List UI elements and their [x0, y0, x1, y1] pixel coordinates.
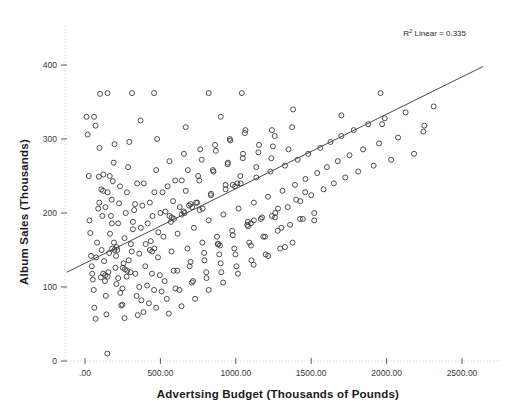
scatter-point	[110, 179, 115, 184]
scatter-point	[114, 253, 119, 258]
scatter-point	[193, 296, 198, 301]
scatter-plot-figure: 0100200300400 .00500.001000.001500.00200…	[0, 0, 505, 415]
scatter-point	[251, 262, 256, 267]
scatter-point	[179, 178, 184, 183]
scatter-point	[98, 91, 103, 96]
scatter-point	[213, 148, 218, 153]
scatter-point	[251, 218, 256, 223]
scatter-point	[160, 190, 165, 195]
scatter-point	[189, 280, 194, 285]
scatter-point	[164, 296, 169, 301]
scatter-point	[206, 91, 211, 96]
y-tick-label: 300	[43, 134, 57, 144]
scatter-point	[108, 213, 113, 218]
scatter-point	[190, 205, 195, 210]
scatter-point	[133, 202, 138, 207]
scatter-point	[239, 91, 244, 96]
scatter-point	[165, 184, 170, 189]
scatter-point	[190, 279, 195, 284]
plot-canvas: 0100200300400 .00500.001000.001500.00200…	[0, 0, 505, 415]
y-axis-ticks: 0100200300400	[43, 60, 67, 366]
scatter-point	[361, 147, 366, 152]
scatter-point	[197, 208, 202, 213]
scatter-point	[138, 118, 143, 123]
scatter-point	[92, 305, 97, 310]
scatter-point	[200, 206, 205, 211]
scatter-point	[422, 123, 427, 128]
x-tick-label: 500.00	[147, 368, 173, 378]
scatter-point	[219, 270, 224, 275]
scatter-point	[96, 206, 101, 211]
scatter-point	[93, 123, 98, 128]
scatter-point	[270, 144, 275, 149]
scatter-point	[171, 199, 176, 204]
scatter-point	[159, 289, 164, 294]
scatter-point	[380, 122, 385, 127]
scatter-point	[107, 174, 112, 179]
scatter-point	[162, 279, 167, 284]
scatter-point	[312, 211, 317, 216]
scatter-point	[278, 246, 283, 251]
scatter-point	[166, 311, 171, 316]
scatter-point	[149, 271, 154, 276]
scatter-point	[177, 205, 182, 210]
x-tick-label: 1500.00	[296, 368, 327, 378]
scatter-point	[150, 213, 155, 218]
scatter-point	[218, 114, 223, 119]
scatter-point	[141, 310, 146, 315]
scatter-point	[235, 271, 240, 276]
scatter-point	[202, 250, 207, 255]
scatter-point	[155, 255, 160, 260]
scatter-point	[175, 231, 180, 236]
scatter-point	[122, 236, 127, 241]
scatter-point	[124, 274, 129, 279]
scatter-point	[331, 181, 336, 186]
scatter-point	[139, 298, 144, 303]
scatter-point	[105, 351, 110, 356]
scatter-point	[97, 200, 102, 205]
scatter-point	[288, 222, 293, 227]
scatter-point	[217, 252, 222, 257]
scatter-point	[89, 253, 94, 258]
scatter-point	[118, 290, 123, 295]
y-tick-label: 400	[43, 60, 57, 70]
scatter-point	[377, 141, 382, 146]
scatter-point	[88, 230, 93, 235]
scatter-point	[279, 225, 284, 230]
r-squared-annotation: R2 Linear = 0.335	[403, 28, 466, 38]
scatter-point	[87, 218, 92, 223]
scatter-point	[303, 176, 308, 181]
scatter-point	[152, 91, 157, 96]
scatter-point	[236, 206, 241, 211]
scatter-point	[200, 240, 205, 245]
scatter-point	[291, 107, 296, 112]
scatter-point	[282, 245, 287, 250]
scatter-point	[251, 200, 256, 205]
scatter-point	[143, 242, 148, 247]
scatter-point	[141, 181, 146, 186]
scatter-point	[343, 175, 348, 180]
scatter-point	[312, 218, 317, 223]
scatter-point	[103, 205, 108, 210]
scatter-point	[109, 197, 114, 202]
scatter-point	[95, 240, 100, 245]
scatter-point	[146, 301, 151, 306]
scatter-point	[154, 305, 159, 310]
scatter-point	[140, 203, 145, 208]
scatter-point	[248, 243, 253, 248]
scatter-point	[260, 215, 265, 220]
scatter-point	[175, 268, 180, 273]
scatter-point	[335, 159, 340, 164]
scatter-point	[126, 258, 131, 263]
scatter-point	[93, 316, 98, 321]
x-axis-title: Advertsing Budget (Thousands of Pounds)	[157, 388, 399, 400]
scatter-point	[155, 137, 160, 142]
scatter-point	[421, 129, 426, 134]
scatter-point	[204, 276, 209, 281]
scatter-point	[266, 194, 271, 199]
scatter-point	[89, 264, 94, 269]
scatter-point	[117, 201, 122, 206]
scatter-point	[315, 171, 320, 176]
scatter-point	[145, 283, 150, 288]
scatter-point	[130, 219, 135, 224]
